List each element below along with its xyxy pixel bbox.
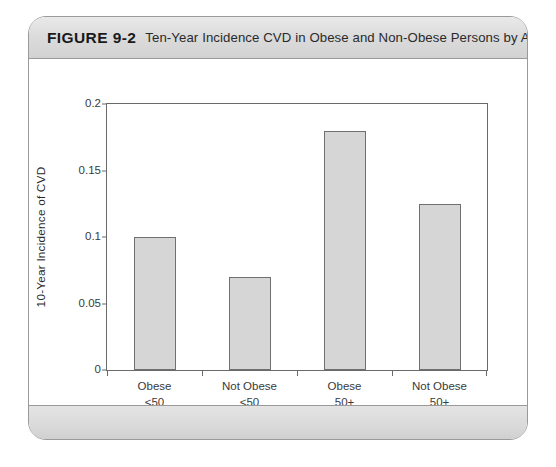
- y-axis-tick-label: 0.1: [61, 231, 101, 243]
- x-axis-tick-mark: [486, 370, 487, 376]
- bar: [419, 204, 461, 370]
- y-axis-tick-mark: [102, 170, 107, 171]
- bar: [134, 237, 176, 370]
- y-axis-tick-mark: [102, 303, 107, 304]
- plot-area: 10-Year Incidence of CVD 00.050.10.150.2…: [106, 103, 488, 371]
- x-axis-tick-mark: [392, 370, 393, 376]
- figure-footer-band: [29, 405, 527, 439]
- x-axis-tick-mark: [202, 370, 203, 376]
- x-axis-tick-mark: [107, 370, 108, 376]
- figure-caption: Ten-Year Incidence CVD in Obese and Non-…: [145, 30, 527, 45]
- y-axis-tick-mark: [102, 237, 107, 238]
- y-axis-tick-label: 0.05: [61, 298, 101, 310]
- figure-container: FIGURE 9-2 Ten-Year Incidence CVD in Obe…: [28, 16, 528, 440]
- figure-header-band: FIGURE 9-2 Ten-Year Incidence CVD in Obe…: [29, 17, 527, 59]
- y-axis-tick-mark: [102, 104, 107, 105]
- chart-body: 10-Year Incidence of CVD 00.050.10.150.2…: [29, 59, 527, 405]
- x-axis-tick-label-line1: Not Obese: [412, 379, 467, 395]
- x-axis-tick-mark: [297, 370, 298, 376]
- x-axis-tick-label-line1: Not Obese: [222, 379, 277, 395]
- x-axis-tick-label-line1: Obese: [138, 379, 172, 395]
- figure-number-label: FIGURE 9-2: [47, 29, 136, 47]
- bar: [229, 277, 271, 370]
- x-axis-tick-label-line1: Obese: [328, 379, 362, 395]
- y-axis-tick-label: 0.15: [61, 165, 101, 177]
- bar: [324, 131, 366, 370]
- y-axis-tick-label: 0.2: [61, 98, 101, 110]
- y-axis-title: 10-Year Incidence of CVD: [34, 167, 48, 308]
- y-axis-tick-label: 0: [61, 364, 101, 376]
